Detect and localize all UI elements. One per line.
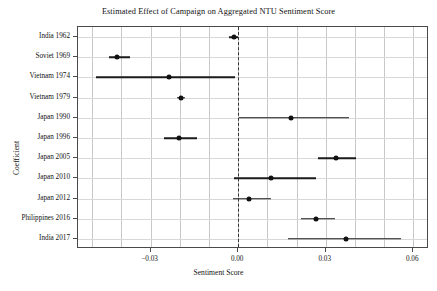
estimate-point [314, 216, 319, 221]
y-axis-tick [73, 56, 77, 57]
confidence-interval-bar [109, 57, 130, 59]
y-axis-tick [73, 218, 77, 219]
y-axis-tick [73, 198, 77, 199]
y-axis-label: Japan 2012 [37, 194, 70, 202]
y-axis-label: Japan 1996 [37, 133, 70, 141]
estimate-point [115, 55, 120, 60]
estimate-row [78, 171, 427, 185]
estimate-row [78, 91, 427, 105]
estimate-point [334, 156, 339, 161]
x-axis-title: Sentiment Score [0, 268, 437, 277]
zero-reference-line [238, 27, 239, 247]
x-axis-tick [237, 248, 238, 252]
x-axis-tick [150, 248, 151, 252]
estimate-point [289, 115, 294, 120]
y-axis-tick [73, 157, 77, 158]
x-axis-label: −0.03 [141, 255, 158, 263]
forest-plot-figure: Estimated Effect of Campaign on Aggregat… [0, 0, 437, 291]
y-axis-label: Japan 1990 [37, 113, 70, 121]
x-axis-label: 0.03 [318, 255, 331, 263]
x-axis-tick [412, 248, 413, 252]
y-axis-tick [73, 36, 77, 37]
y-axis-title: Coefficient [12, 141, 21, 175]
y-axis-tick [73, 177, 77, 178]
y-axis-label: Japan 2010 [37, 173, 70, 181]
estimate-point [179, 95, 184, 100]
estimate-row [78, 192, 427, 206]
estimate-row [78, 212, 427, 226]
estimate-row [78, 50, 427, 64]
estimate-row [78, 111, 427, 125]
x-axis-tick [325, 248, 326, 252]
y-axis-tick [73, 76, 77, 77]
y-axis-label: Vietnam 1979 [30, 93, 71, 101]
estimate-point [231, 35, 236, 40]
estimate-row [78, 151, 427, 165]
confidence-interval-bar [234, 178, 316, 180]
y-axis-tick [73, 117, 77, 118]
estimate-row [78, 232, 427, 246]
y-axis-label: India 2017 [39, 234, 70, 242]
estimate-point [269, 176, 274, 181]
estimate-point [177, 136, 182, 141]
y-axis-label: India 1962 [39, 32, 70, 40]
x-axis-label: 0.00 [231, 255, 244, 263]
y-axis-label: Philippines 2016 [21, 214, 70, 222]
y-axis-label: Soviet 1969 [35, 52, 70, 60]
plot-area [77, 26, 428, 248]
estimate-point [344, 236, 349, 241]
estimate-row [78, 131, 427, 145]
y-axis-tick [73, 97, 77, 98]
chart-title: Estimated Effect of Campaign on Aggregat… [0, 7, 437, 16]
estimate-row [78, 70, 427, 84]
estimate-point [247, 196, 252, 201]
y-axis-label: Japan 2005 [37, 153, 70, 161]
estimate-point [167, 75, 172, 80]
estimate-row [78, 30, 427, 44]
confidence-interval-bar [239, 117, 349, 119]
y-axis-label: Vietnam 1974 [30, 72, 71, 80]
y-axis-tick [73, 137, 77, 138]
y-axis-tick [73, 238, 77, 239]
x-axis-label: 0.06 [406, 255, 419, 263]
